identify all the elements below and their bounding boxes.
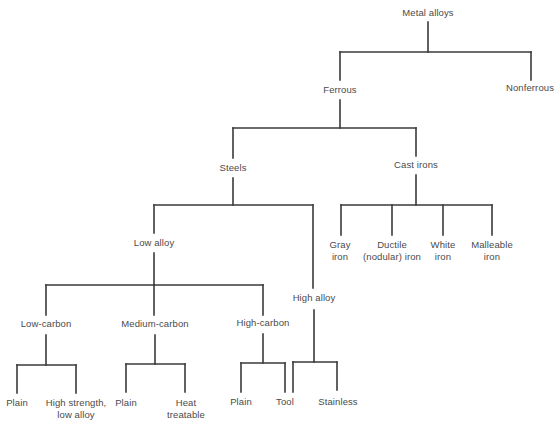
node-high-carbon: High-carbon bbox=[237, 317, 290, 329]
node-white-iron: White iron bbox=[431, 239, 456, 263]
node-gray-iron-line2: iron bbox=[330, 251, 351, 263]
node-medium-carbon: Medium-carbon bbox=[121, 318, 188, 330]
node-nonferrous: Nonferrous bbox=[506, 82, 554, 94]
node-hsla-line1: High strength, bbox=[46, 397, 107, 409]
node-ductile-iron-line1: Ductile bbox=[363, 239, 421, 251]
node-high-carbon-plain: Plain bbox=[230, 396, 252, 408]
node-gray-iron: Gray iron bbox=[330, 239, 351, 263]
node-tool: Tool bbox=[276, 396, 294, 408]
node-heat-treatable-line1: Heat bbox=[167, 397, 205, 409]
node-malleable-iron-line2: iron bbox=[471, 251, 513, 263]
node-hsla: High strength, low alloy bbox=[46, 397, 107, 421]
node-heat-treatable: Heat treatable bbox=[167, 397, 205, 421]
node-low-carbon: Low-carbon bbox=[21, 318, 72, 330]
node-low-carbon-plain: Plain bbox=[6, 397, 28, 409]
node-steels: Steels bbox=[219, 162, 246, 174]
node-ductile-iron-line2: (nodular) iron bbox=[363, 251, 421, 263]
node-medium-carbon-plain: Plain bbox=[115, 397, 137, 409]
node-malleable-iron: Malleable iron bbox=[471, 239, 513, 263]
tree-connectors bbox=[0, 0, 560, 426]
node-stainless: Stainless bbox=[318, 396, 357, 408]
node-hsla-line2: low alloy bbox=[46, 409, 107, 421]
node-cast-irons: Cast irons bbox=[394, 159, 438, 171]
node-white-iron-line2: iron bbox=[431, 251, 456, 263]
node-low-alloy: Low alloy bbox=[134, 237, 175, 249]
node-high-alloy: High alloy bbox=[293, 292, 336, 304]
node-gray-iron-line1: Gray bbox=[330, 239, 351, 251]
node-metal-alloys: Metal alloys bbox=[402, 7, 453, 19]
node-white-iron-line1: White bbox=[431, 239, 456, 251]
node-heat-treatable-line2: treatable bbox=[167, 409, 205, 421]
node-ductile-iron: Ductile (nodular) iron bbox=[363, 239, 421, 263]
node-malleable-iron-line1: Malleable bbox=[471, 239, 513, 251]
node-ferrous: Ferrous bbox=[323, 84, 356, 96]
